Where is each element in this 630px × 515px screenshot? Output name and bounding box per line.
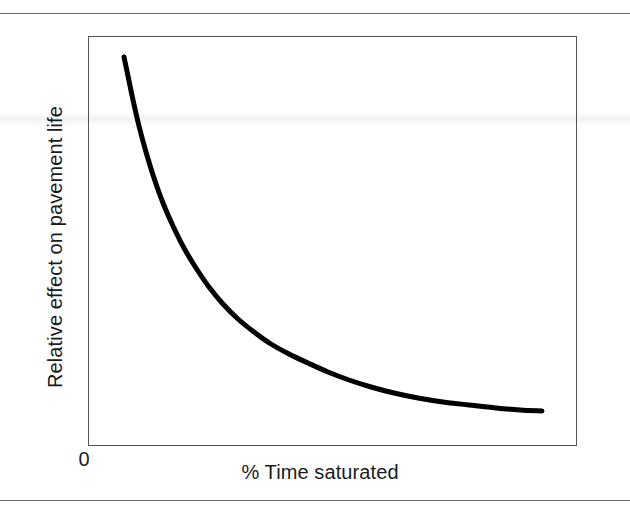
y-axis-label: Relative effect on pavement life xyxy=(44,106,67,388)
figure-container: Relative effect on pavement life % Time … xyxy=(0,0,630,515)
page-rule-top xyxy=(0,13,630,14)
origin-axis-label: 0 xyxy=(78,448,89,471)
page-rule-bottom xyxy=(0,500,630,501)
plot-frame xyxy=(88,36,577,446)
x-axis-label: % Time saturated xyxy=(241,461,398,484)
